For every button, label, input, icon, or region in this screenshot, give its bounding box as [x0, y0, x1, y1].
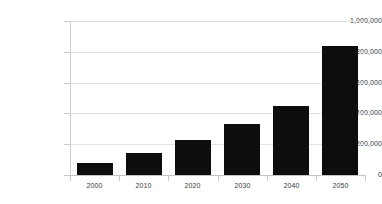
x-axis-tick-mark	[218, 176, 219, 181]
bar-2030	[224, 124, 260, 175]
bar-2010	[126, 153, 162, 175]
x-axis-tick-mark	[316, 176, 317, 181]
x-axis-tick-label: 2030	[218, 182, 267, 190]
x-axis-tick-label: 2020	[168, 182, 217, 190]
x-axis-tick-label: 2050	[316, 182, 365, 190]
bar-2040	[273, 106, 309, 175]
x-axis-tick-mark	[70, 176, 71, 181]
bar-2000	[77, 163, 113, 175]
x-axis-tick-mark	[168, 176, 169, 181]
plot-area	[70, 21, 365, 175]
x-axis-tick-mark	[365, 176, 366, 181]
x-axis-tick-label: 2000	[70, 182, 119, 190]
bar-2050	[322, 46, 358, 175]
x-axis-tick-mark	[119, 176, 120, 181]
bar-chart-figure: 0200,000400,000600,000800,0001,000,000 2…	[0, 0, 382, 204]
x-axis-tick-label: 2010	[119, 182, 168, 190]
bar-2020	[175, 140, 211, 175]
x-axis-tick-mark	[267, 176, 268, 181]
x-axis-tick-label: 2040	[267, 182, 316, 190]
